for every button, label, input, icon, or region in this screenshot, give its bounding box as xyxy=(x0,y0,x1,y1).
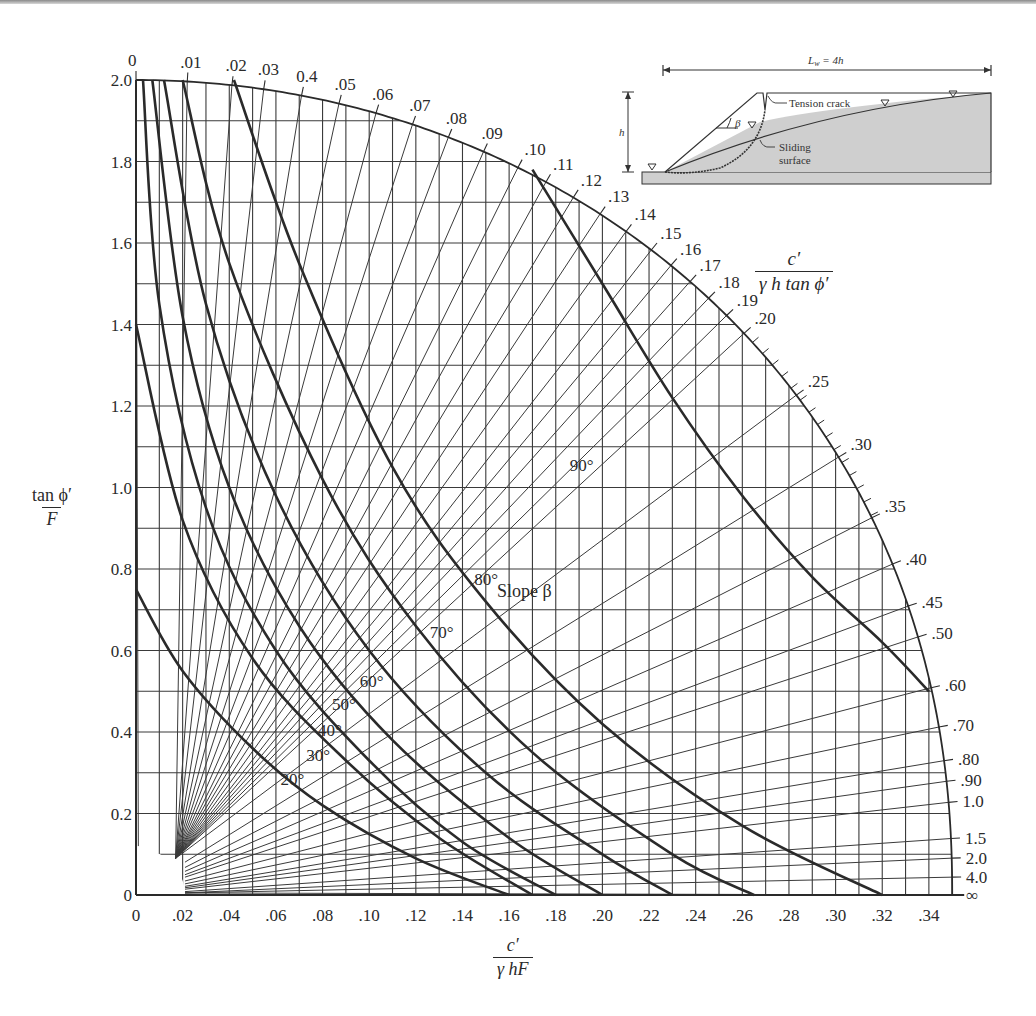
y-tick-label: 0 xyxy=(124,886,133,905)
arc-value-label: .05 xyxy=(334,75,355,94)
y-tick-label: 0.2 xyxy=(111,805,132,824)
x-tick-label: .14 xyxy=(452,906,474,925)
slope-angle-label: 60° xyxy=(360,672,384,691)
arc-scale-title: c′ γ h tan ϕ′ xyxy=(755,248,833,295)
x-tick-label: .06 xyxy=(265,906,286,925)
arc-value-label: .11 xyxy=(553,155,574,174)
inset-slope-diagram: Lw = 4h h β Tension crack Sliding surfac… xyxy=(619,54,991,184)
x-tick-label: .16 xyxy=(498,906,519,925)
sliding-surface-label-1: Sliding xyxy=(779,141,811,153)
y-axis-title-numerator: tan ϕ′ xyxy=(28,485,76,507)
arc-value-label: .50 xyxy=(931,624,952,643)
arc-value-label: .02 xyxy=(226,56,247,75)
y-tick-label: 0.6 xyxy=(111,642,132,661)
arc-value-label: .08 xyxy=(446,109,467,128)
x-tick-label: .28 xyxy=(778,906,799,925)
inset-height-label: h xyxy=(619,126,625,138)
grid xyxy=(136,80,952,895)
slope-angle-label: 80° xyxy=(474,570,498,589)
arc-value-label: .45 xyxy=(921,593,942,612)
y-tick-label: 1.2 xyxy=(111,397,132,416)
x-tick-label: .34 xyxy=(918,906,940,925)
y-tick-label: 1.0 xyxy=(111,479,132,498)
x-tick-label: .22 xyxy=(638,906,659,925)
arc-scale-title-denominator: γ h tan ϕ′ xyxy=(755,271,833,295)
y-tick-label: 1.4 xyxy=(111,316,133,335)
arc-value-label: 4.0 xyxy=(966,868,987,887)
arc-value-label: .10 xyxy=(524,140,545,159)
arc-value-label: .20 xyxy=(754,309,775,328)
arc-value-label: .03 xyxy=(258,60,279,79)
arc-value-label: .90 xyxy=(960,771,981,790)
x-axis-title-denominator: γ hF xyxy=(493,957,533,980)
sliding-surface-label-2: surface xyxy=(779,154,811,166)
arc-value-label: .30 xyxy=(851,435,872,454)
x-tick-label: .18 xyxy=(545,906,566,925)
y-tick-label: 2.0 xyxy=(111,71,132,90)
x-tick-label: .26 xyxy=(732,906,753,925)
slope-angle-label: 90° xyxy=(570,456,594,475)
arc-value-label: .18 xyxy=(718,273,739,292)
x-tick-label: .08 xyxy=(312,906,333,925)
y-tick-label: 0.8 xyxy=(111,560,132,579)
slope-angle-label: 70° xyxy=(430,623,454,642)
slope-beta-label: Slope β xyxy=(497,581,552,601)
arc-value-label: .16 xyxy=(680,240,701,259)
slope-angle-label: 30° xyxy=(306,746,330,765)
x-tick-label: .10 xyxy=(359,906,380,925)
stability-chart: 0.02.04.06.08.10.12.14.16.18.20.22.24.26… xyxy=(0,0,1036,1016)
arc-value-label: .35 xyxy=(884,497,905,516)
arc-value-label: .15 xyxy=(660,224,681,243)
arc-value-label: 1.0 xyxy=(963,792,984,811)
arc-value-label: 0.4 xyxy=(296,67,318,86)
x-tick-label: .12 xyxy=(405,906,426,925)
arc-value-label: 1.5 xyxy=(965,829,986,848)
arc-value-label: .12 xyxy=(581,171,602,190)
x-tick-labels: 0.02.04.06.08.10.12.14.16.18.20.22.24.26… xyxy=(132,906,940,925)
slope-angle-label: 50° xyxy=(332,695,356,714)
inset-beta-label: β xyxy=(734,117,741,129)
y-tick-label: 1.8 xyxy=(111,153,132,172)
arc-value-label: .06 xyxy=(372,85,393,104)
slope-curve xyxy=(532,170,928,692)
x-axis-title-numerator: c′ xyxy=(503,935,523,957)
x-tick-label: .04 xyxy=(219,906,241,925)
x-tick-label: .02 xyxy=(172,906,193,925)
slope-angle-label: 20° xyxy=(281,770,305,789)
x-tick-label: 0 xyxy=(132,906,141,925)
arc-value-label: .07 xyxy=(409,96,431,115)
water-level-icon xyxy=(648,164,656,170)
arc-value-label: .60 xyxy=(945,676,966,695)
arc-value-label: .09 xyxy=(481,124,502,143)
inset-width-label: Lw = 4h xyxy=(807,54,844,68)
y-tick-label: 1.6 xyxy=(111,234,132,253)
y-axis-title: tan ϕ′ F xyxy=(28,485,76,530)
arc-scale-title-numerator: c′ xyxy=(783,248,804,271)
y-axis-title-denominator: F xyxy=(42,507,61,530)
slope-angle-label: 40° xyxy=(318,721,342,740)
arc-value-label: .01 xyxy=(180,53,201,72)
tension-crack-label: Tension crack xyxy=(789,97,851,109)
y-tick-labels: 00.20.40.60.81.01.21.41.61.82.0 xyxy=(111,71,133,905)
arc-value-label: .14 xyxy=(634,205,656,224)
arc-value-label: 2.0 xyxy=(966,849,987,868)
arc-value-label: .13 xyxy=(608,187,629,206)
x-tick-label: .24 xyxy=(685,906,707,925)
inset-base xyxy=(642,172,991,184)
arc-value-label: .40 xyxy=(905,550,926,569)
arc-value-label: .80 xyxy=(958,750,979,769)
x-tick-label: .20 xyxy=(592,906,613,925)
arc-value-label: .25 xyxy=(808,372,829,391)
x-tick-label: .30 xyxy=(825,906,846,925)
y-tick-label: 0.4 xyxy=(111,723,133,742)
x-tick-label: .32 xyxy=(872,906,893,925)
arc-value-label: ∞ xyxy=(966,886,978,905)
arc-value-label: .70 xyxy=(953,716,974,735)
arc-value-label: 0 xyxy=(128,51,137,70)
x-axis-title: c′ γ hF xyxy=(493,935,533,980)
